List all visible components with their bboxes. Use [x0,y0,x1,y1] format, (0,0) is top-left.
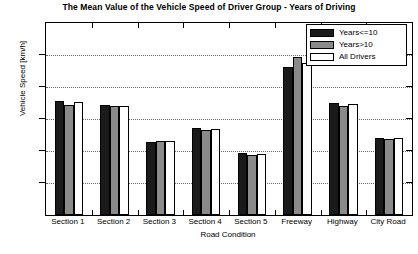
x-axis-tick-mark [321,210,322,215]
x-axis-tick-mark [138,210,139,215]
x-axis-tick-label: Highway [327,217,358,226]
legend-swatch-icon [310,29,334,37]
y-axis-tick-mark [406,182,412,183]
y-axis-tick-mark [39,182,45,183]
bar-section-5-series-0 [238,153,247,215]
x-axis-tick-mark [92,210,93,215]
gridline [46,87,412,88]
chart-figure: The Mean Value of the Vehicle Speed of D… [0,0,418,254]
chart-legend: Years<=10Years>10All Drivers [306,24,407,66]
x-axis-tick-mark [229,210,230,215]
x-axis-tick-mark [92,23,93,28]
legend-swatch-icon [310,53,334,61]
y-axis-tick-mark [406,150,412,151]
bar-section-5-series-1 [247,155,256,215]
legend-label: All Drivers [339,53,375,61]
bar-city-road-series-2 [394,138,403,215]
bar-section-3-series-1 [156,141,165,215]
bar-section-3-series-2 [165,141,174,215]
bar-section-2-series-1 [110,106,119,215]
x-axis-tick-mark [275,23,276,28]
bar-section-2-series-2 [119,106,128,215]
bar-section-1-series-1 [64,105,73,215]
y-axis-tick-mark [406,86,412,87]
x-axis-tick-label: Section 1 [51,217,84,226]
bar-city-road-series-0 [375,138,384,215]
legend-item-1[interactable]: Years>10 [310,39,403,50]
x-axis-tick-mark [138,23,139,28]
y-axis-label: Vehicle Speed [km/h] [18,9,27,149]
x-axis-tick-label: Section 4 [188,217,221,226]
legend-label: Years>10 [339,41,373,49]
x-axis-tick-label: City Road [371,217,406,226]
bar-freeway-series-2 [302,63,311,215]
legend-item-0[interactable]: Years<=10 [310,27,403,38]
legend-swatch-icon [310,41,334,49]
x-axis-tick-label: Section 3 [143,217,176,226]
bar-city-road-series-1 [384,139,393,215]
bar-section-4-series-2 [211,129,220,215]
bar-highway-series-1 [339,106,348,215]
bar-section-5-series-2 [257,154,266,215]
x-axis-tick-mark [275,210,276,215]
y-axis-tick-mark [39,86,45,87]
x-axis-tick-mark [229,23,230,28]
bar-highway-series-0 [329,103,338,215]
x-axis-tick-label: Section 2 [97,217,130,226]
bar-highway-series-2 [348,104,357,215]
y-axis-tick-mark [39,150,45,151]
x-axis-tick-mark [366,210,367,215]
bar-section-3-series-0 [146,142,155,215]
x-axis-tick-mark [183,23,184,28]
bar-freeway-series-0 [283,67,292,215]
legend-item-2[interactable]: All Drivers [310,51,403,62]
bar-section-1-series-2 [74,102,83,215]
y-axis-tick-mark [39,118,45,119]
bar-section-4-series-0 [192,128,201,215]
x-axis-tick-label: Section 5 [234,217,267,226]
x-axis-tick-label: Freeway [281,217,312,226]
x-axis-label: Road Condition [45,230,411,239]
bar-section-1-series-0 [55,101,64,215]
legend-label: Years<=10 [339,29,377,37]
bar-section-2-series-0 [100,105,109,215]
page-title: The Mean Value of the Vehicle Speed of D… [0,2,418,12]
y-axis-tick-mark [39,54,45,55]
bar-section-4-series-1 [201,130,210,215]
y-axis-tick-mark [406,54,412,55]
y-axis-tick-mark [406,118,412,119]
x-axis-tick-mark [183,210,184,215]
bar-freeway-series-1 [293,57,302,215]
